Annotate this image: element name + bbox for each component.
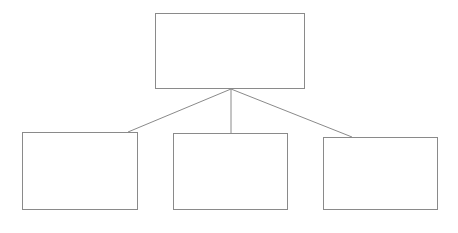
node-label-child-3 <box>324 138 437 209</box>
node-box-child-1[interactable] <box>22 132 138 210</box>
node-box-child-3[interactable] <box>323 137 438 210</box>
node-label-child-2 <box>174 134 287 209</box>
node-label-child-1 <box>23 133 137 209</box>
node-box-root[interactable] <box>155 13 305 89</box>
node-box-child-2[interactable] <box>173 133 288 210</box>
connector-root-to-child-1 <box>128 89 231 132</box>
diagram-canvas <box>0 0 458 233</box>
node-label-root <box>156 14 304 88</box>
connector-root-to-child-3 <box>231 89 352 137</box>
